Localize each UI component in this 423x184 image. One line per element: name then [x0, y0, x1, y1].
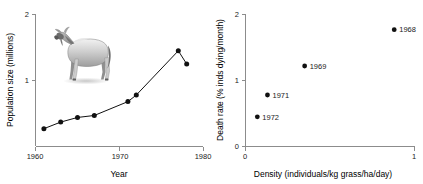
density-death-rate-points: 1972197119691968 [255, 25, 416, 121]
right-x-tick-label-1: 1 [412, 152, 416, 161]
scatter-point-label: 1968 [399, 25, 416, 34]
right-y-tick-label-2: 2 [235, 10, 239, 19]
left-x-axis-title: Year [110, 169, 127, 179]
scatter-data-point [302, 64, 307, 69]
population-data-point [125, 99, 130, 104]
population-data-point [92, 113, 97, 118]
scatter-data-point [265, 93, 270, 98]
left-x-tick-label-1980: 1980 [195, 152, 212, 161]
scatter-point-label: 1969 [310, 62, 327, 71]
scatter-point-label: 1972 [262, 113, 279, 122]
right-x-tick-label-0: 0 [243, 152, 247, 161]
left-x-tick-label-1960: 1960 [27, 152, 44, 161]
scatter-data-point [255, 114, 260, 119]
population-data-point [58, 120, 63, 125]
left-y-tick-label-1: 1 [25, 76, 29, 85]
left-y-axis-title: Population size (millions) [5, 33, 15, 127]
population-data-point [41, 126, 46, 131]
scatter-point-label: 1971 [272, 91, 289, 100]
density-death-rate-chart: 2 1 0 0 1 Death rate (% inds dying/month… [211, 0, 423, 184]
figure-container: 2 1 1960 1970 1980 Population size (mill… [0, 0, 423, 184]
right-y-axis-title: Death rate (% inds dying/month) [215, 19, 225, 141]
right-y-tick-label-1: 1 [235, 76, 239, 85]
left-y-tick-label-2: 2 [25, 10, 29, 19]
right-x-axis-title: Density (individuals/kg grass/ha/day) [254, 169, 393, 179]
population-data-point [184, 62, 189, 67]
scatter-data-point [392, 27, 397, 32]
population-time-series-chart: 2 1 1960 1970 1980 Population size (mill… [0, 0, 212, 184]
density-death-rate-panel: 2 1 0 0 1 Death rate (% inds dying/month… [211, 0, 423, 184]
right-y-tick-label-0: 0 [235, 142, 239, 151]
population-line [44, 51, 187, 129]
left-x-tick-label-1970: 1970 [112, 152, 129, 161]
population-time-series-panel: 2 1 1960 1970 1980 Population size (mill… [0, 0, 212, 184]
population-data-point [134, 93, 139, 98]
population-series [41, 48, 189, 131]
population-data-point [75, 115, 80, 120]
population-data-point [176, 48, 181, 53]
